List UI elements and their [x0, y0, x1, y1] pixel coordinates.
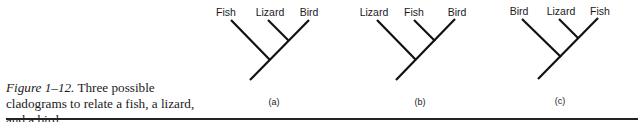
taxon-label: Bird [510, 5, 529, 17]
cladogram-c: Bird Lizard Fish (c) [0, 0, 639, 122]
taxon-label: Lizard [547, 5, 576, 17]
taxon-label: Fish [590, 5, 610, 17]
cladogram-c-lines [0, 0, 639, 122]
horizontal-rule [6, 118, 638, 120]
cladogram-sublabel: (c) [555, 96, 566, 106]
